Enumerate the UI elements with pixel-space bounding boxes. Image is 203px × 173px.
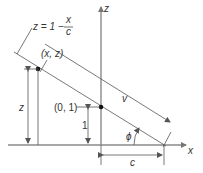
angle-phi-label: ϕ bbox=[126, 131, 132, 142]
c-dimension-label: c bbox=[130, 157, 135, 168]
equation-lhs: z = 1 − bbox=[32, 21, 64, 32]
vector-v-label: v bbox=[122, 93, 128, 104]
equation-numerator: x bbox=[65, 14, 72, 25]
z-axis-label: z bbox=[103, 3, 109, 14]
diagram-canvas: x z z = 1 − x c (x, z) z (0, 1) 1 c ϕ v bbox=[0, 0, 203, 173]
angle-phi-arc bbox=[134, 128, 139, 145]
point-x-z-label: (x, z) bbox=[41, 48, 63, 59]
equation-leader bbox=[17, 28, 32, 54]
one-dimension-label: 1 bbox=[82, 120, 88, 131]
x-axis-label: x bbox=[187, 145, 194, 156]
z-dimension-label: z bbox=[18, 102, 24, 113]
point-0-1-label: (0, 1) bbox=[54, 102, 77, 113]
line-z-equals-1-minus-x-over-c bbox=[14, 52, 166, 146]
equation-denominator: c bbox=[66, 26, 71, 37]
